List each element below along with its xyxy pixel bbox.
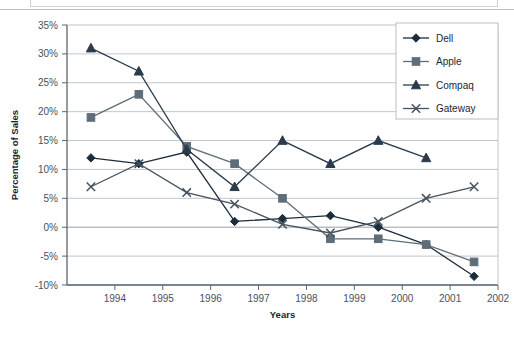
triangle-marker <box>326 159 335 168</box>
legend-label-apple: Apple <box>436 56 462 67</box>
y-tick-label: -5% <box>40 251 58 262</box>
x-tick-label: 1996 <box>200 293 223 304</box>
square-marker <box>412 58 420 66</box>
triangle-marker <box>374 136 383 145</box>
square-marker <box>87 114 95 122</box>
legend-label-dell: Dell <box>436 33 453 44</box>
chart-figure: a graph representing the percentage chan… <box>0 0 514 340</box>
x-tick-label: 1998 <box>295 293 318 304</box>
diamond-marker <box>326 211 334 219</box>
y-tick-label: 0% <box>44 222 59 233</box>
square-marker <box>470 258 478 266</box>
x-tick-label: 2000 <box>391 293 414 304</box>
y-tick-label: 35% <box>38 20 58 31</box>
legend-label-compaq: Compaq <box>436 80 474 91</box>
square-marker <box>135 91 143 99</box>
diamond-marker <box>87 154 95 162</box>
square-marker <box>279 195 287 203</box>
triangle-marker <box>86 43 95 52</box>
triangle-marker <box>278 136 287 145</box>
y-tick-label: 25% <box>38 77 58 88</box>
square-marker <box>422 241 430 249</box>
legend-label-gateway: Gateway <box>436 103 475 114</box>
x-tick-label: 1995 <box>152 293 175 304</box>
x-tick-label: 2002 <box>487 293 510 304</box>
y-axis-title: Percentage of Sales <box>9 110 20 200</box>
y-tick-label: 30% <box>38 48 58 59</box>
x-tick-label: 1999 <box>343 293 366 304</box>
x-tick-label: 1994 <box>104 293 127 304</box>
square-marker <box>374 235 382 243</box>
x-tick-label: 1997 <box>247 293 270 304</box>
x-tick-label: 2001 <box>439 293 462 304</box>
diamond-marker <box>470 272 478 280</box>
line-chart-svg: 35%30%25%20%15%10%5%0%-5%-10%19941995199… <box>0 0 514 340</box>
y-tick-label: 10% <box>38 164 58 175</box>
diamond-marker <box>230 217 238 225</box>
triangle-marker <box>134 66 143 75</box>
y-tick-label: 15% <box>38 135 58 146</box>
y-tick-label: -10% <box>35 280 58 291</box>
square-marker <box>231 160 239 168</box>
x-axis-title: Years <box>270 309 295 320</box>
y-tick-label: 5% <box>44 193 59 204</box>
y-tick-label: 20% <box>38 106 58 117</box>
